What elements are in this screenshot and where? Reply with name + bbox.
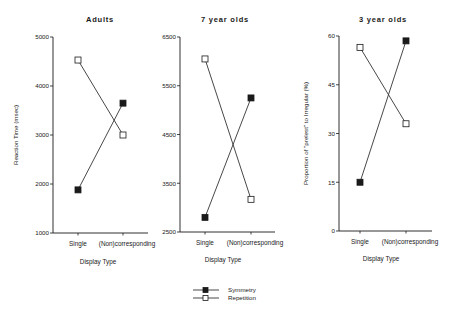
x-tick-label: (Non)corresponding [382,238,439,246]
y-tick-label: 15 [328,179,335,186]
filled-square-marker [403,38,409,44]
y-tick-label: 4500 [162,131,176,138]
x-tick-label: (Non)corresponding [227,239,284,247]
y-tick-label: 45 [328,81,335,88]
series-line-symmetry [78,103,123,190]
x-axis-label: Display Type [205,256,242,264]
y-tick-label: 2000 [35,180,49,187]
y-axis-label: Reaction Time (msec) [12,105,19,165]
filled-square-icon [203,288,208,293]
y-tick-label: 3000 [35,131,49,138]
y-tick-label: 2500 [162,228,176,235]
panel-3-year-olds: 3 year olds015304560Single(Non)correspon… [302,15,439,263]
filled-square-marker [202,214,208,220]
open-square-marker [202,56,208,62]
x-tick-label: (Non)corresponding [99,240,156,248]
series-line-repetition [205,59,251,199]
y-tick-label: 0 [332,227,336,234]
y-tick-label: 6500 [162,33,176,40]
panel-adults: Adults10002000300040005000Single(Non)cor… [12,15,156,266]
open-square-marker [248,196,254,202]
panel-title: Adults [86,15,114,24]
open-square-marker [357,44,363,50]
panel-7-year-olds: 7 year olds25003500450055006500Single(No… [162,15,283,264]
panel-title: 3 year olds [359,15,407,24]
x-tick-label: Single [69,240,87,248]
figure: Adults10002000300040005000Single(Non)cor… [0,0,456,316]
y-tick-label: 5000 [35,33,49,40]
legend-label: Repetition [228,294,256,301]
filled-square-marker [357,179,363,185]
open-square-marker [403,121,409,127]
open-square-marker [75,57,81,63]
panel-title: 7 year olds [201,15,249,24]
y-tick-label: 5500 [162,82,176,89]
x-tick-label: Single [196,239,214,247]
legend: SymmetryRepetition [193,286,257,301]
x-axis-label: Display Type [363,255,400,263]
series-line-symmetry [205,98,251,217]
legend-label: Symmetry [228,286,257,293]
y-axis-label: Proportion of "prelest" to Irregular (%) [302,82,309,185]
y-tick-label: 60 [328,32,335,39]
x-axis-label: Display Type [80,258,117,266]
filled-square-marker [75,187,81,193]
x-tick-label: Single [351,238,369,246]
y-tick-label: 3500 [162,180,176,187]
y-tick-label: 4000 [35,82,49,89]
filled-square-marker [248,95,254,101]
series-line-repetition [78,60,123,135]
y-tick-label: 1000 [35,229,49,236]
open-square-marker [120,132,126,138]
filled-square-marker [120,100,126,106]
open-square-icon [203,296,208,301]
y-tick-label: 30 [328,130,335,137]
